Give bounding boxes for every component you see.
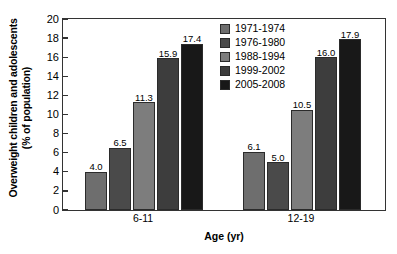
bar-value-label: 5.0 [271,153,284,163]
bar-group: 4.06.511.315.917.4 [85,19,203,210]
legend-swatch [220,80,230,90]
y-axis-tick-mark [63,133,68,134]
y-axis-title-line2: (% of population) [20,66,32,148]
y-axis-tick-label: 4 [53,166,63,177]
bar: 17.4 [181,44,203,210]
y-axis-tick-label: 8 [53,128,63,139]
legend-label: 1971-1974 [235,23,285,34]
bar-value-label: 6.1 [247,142,260,152]
bar-value-label: 10.5 [293,100,312,110]
legend-item: 2005-2008 [220,78,285,91]
legend-swatch [220,38,230,48]
legend-label: 1976-1980 [235,37,285,48]
legend-item: 1971-1974 [220,22,285,35]
bar: 4.0 [85,172,107,210]
legend-label: 1988-1994 [235,51,285,62]
y-axis-tick-mark [63,190,68,191]
x-axis-title: Age (yr) [62,230,386,242]
y-axis-tick-mark [63,152,68,153]
y-axis-tick-mark [63,18,68,19]
y-axis-tick-mark [63,171,68,172]
x-axis-tick-labels: 6-1112-19 [62,213,386,229]
bar: 16.0 [315,57,337,210]
bar-value-label: 15.9 [159,49,178,59]
legend-item: 1988-1994 [220,50,285,63]
bar-chart-figure: Overweight children and adolescents (% o… [0,0,397,254]
chart-legend: 1971-19741976-19801988-19941999-20022005… [218,21,287,92]
y-axis-tick-label: 2 [53,185,63,196]
bar-value-label: 16.0 [317,48,336,58]
bar: 6.5 [109,148,131,210]
bar: 5.0 [267,162,289,210]
y-axis-tick-label: 20 [47,14,63,25]
y-axis-title-line1: Overweight children and adolescents [7,18,19,197]
bar-value-label: 17.9 [341,30,360,40]
bar: 17.9 [339,39,361,210]
y-axis-tick-mark [63,57,68,58]
y-axis-tick-label: 16 [47,52,63,63]
y-axis-tick-mark [63,76,68,77]
bar-value-label: 4.0 [89,162,102,172]
legend-swatch [220,24,230,34]
x-axis-tick-label: 6-11 [133,213,153,224]
legend-label: 1999-2002 [235,65,285,76]
legend-swatch [220,52,230,62]
y-axis-tick-mark [63,209,68,210]
bar-value-label: 6.5 [113,138,126,148]
x-axis-tick-label: 12-19 [288,213,315,224]
y-axis-tick-label: 12 [47,90,63,101]
y-axis-title: Overweight children and adolescents (% o… [0,0,40,215]
y-axis-tick-mark [63,37,68,38]
y-axis-tick-label: 6 [53,147,63,158]
legend-item: 1999-2002 [220,64,285,77]
bar: 11.3 [133,102,155,210]
bar: 6.1 [243,152,265,210]
bar-value-label: 17.4 [183,34,202,44]
y-axis-tick-label: 14 [47,71,63,82]
y-axis-tick-mark [63,95,68,96]
legend-swatch [220,66,230,76]
bar-value-label: 11.3 [135,93,153,103]
bar: 15.9 [157,58,179,210]
y-axis-tick-mark [63,114,68,115]
bar: 10.5 [291,110,313,210]
y-axis-tick-label: 18 [47,33,63,44]
y-axis-tick-label: 10 [47,109,63,120]
legend-label: 2005-2008 [235,79,285,90]
legend-item: 1976-1980 [220,36,285,49]
